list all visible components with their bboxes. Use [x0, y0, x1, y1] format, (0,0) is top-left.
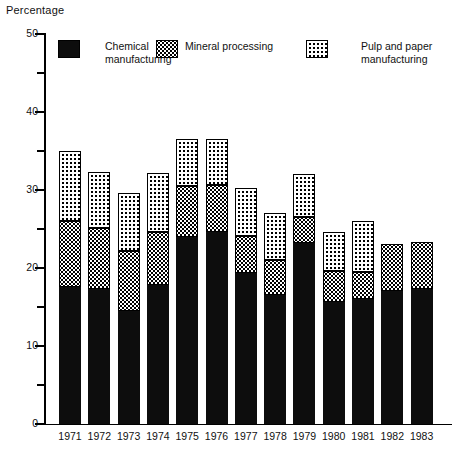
bar-segment-mineral-1977	[235, 236, 257, 273]
y-tick-label-20: 20	[4, 261, 38, 273]
y-tick-major-20	[35, 267, 44, 269]
bar-segment-pulp-1981	[352, 221, 374, 272]
bar-segment-chemical-1971	[59, 287, 81, 424]
bar-1978	[264, 213, 286, 424]
y-tick-major-50	[35, 33, 44, 35]
bar-segment-chemical-1976	[206, 232, 228, 424]
bar-segment-mineral-1975	[176, 186, 198, 237]
bar-segment-pulp-1976	[206, 139, 228, 185]
bar-segment-mineral-1973	[118, 251, 140, 311]
bar-segment-chemical-1973	[118, 311, 140, 423]
bar-segment-mineral-1971	[59, 221, 81, 287]
y-tick-major-0	[35, 423, 44, 425]
x-tick-label-1983: 1983	[402, 430, 442, 442]
bar-segment-chemical-1975	[176, 237, 198, 423]
bar-1982	[381, 244, 403, 423]
y-tick-label-50: 50	[4, 27, 38, 39]
bar-segment-mineral-1979	[293, 217, 315, 244]
bar-segment-chemical-1982	[381, 291, 403, 424]
bar-1977	[235, 188, 257, 424]
bar-1980	[323, 232, 345, 423]
bar-segment-chemical-1972	[88, 289, 110, 423]
bar-segment-mineral-1981	[352, 272, 374, 299]
bar-segment-pulp-1971	[59, 151, 81, 222]
bar-segment-pulp-1980	[323, 232, 345, 271]
y-tick-major-10	[35, 345, 44, 347]
bar-segment-pulp-1979	[293, 174, 315, 217]
bar-segment-pulp-1974	[147, 173, 169, 232]
y-tick-label-30: 30	[4, 183, 38, 195]
bar-1971	[59, 151, 81, 424]
plot-area	[44, 33, 452, 425]
bar-1975	[176, 139, 198, 424]
bar-segment-mineral-1972	[88, 228, 110, 290]
y-tick-label-40: 40	[4, 105, 38, 117]
bar-1973	[118, 193, 140, 424]
bar-segment-mineral-1982	[381, 244, 403, 291]
bar-segment-mineral-1974	[147, 232, 169, 286]
y-axis-tick-labels: 01020304050	[0, 33, 38, 425]
bar-segment-pulp-1973	[118, 193, 140, 252]
bar-segment-chemical-1980	[323, 302, 345, 424]
bar-segment-chemical-1979	[293, 243, 315, 423]
bar-segment-chemical-1981	[352, 299, 374, 423]
x-axis-tick-labels: 1971197219731974197519761977197819791980…	[44, 430, 452, 450]
y-tick-major-40	[35, 111, 44, 113]
bar-segment-pulp-1975	[176, 139, 198, 186]
y-tick-label-0: 0	[4, 417, 38, 429]
bar-1983	[411, 242, 433, 424]
bar-segment-pulp-1972	[88, 172, 110, 228]
bar-segment-chemical-1974	[147, 285, 169, 423]
y-tick-minor-25	[37, 228, 44, 230]
bar-segment-mineral-1983	[411, 242, 433, 290]
bar-segment-mineral-1976	[206, 185, 228, 232]
y-axis-title: Percentage	[6, 4, 64, 16]
bar-segment-mineral-1980	[323, 271, 345, 301]
bar-1979	[293, 174, 315, 424]
bar-1974	[147, 173, 169, 423]
bar-segment-mineral-1978	[264, 260, 286, 295]
y-tick-minor-5	[37, 384, 44, 386]
bar-1972	[88, 172, 110, 424]
bar-segment-pulp-1978	[264, 213, 286, 260]
bar-segment-chemical-1977	[235, 273, 257, 424]
stacked-bar-chart: Percentage Chemical manufacturing Minera…	[0, 0, 457, 462]
bar-segment-pulp-1977	[235, 188, 257, 236]
bar-series-group	[44, 33, 452, 425]
y-tick-major-30	[35, 189, 44, 191]
bar-1976	[206, 139, 228, 424]
bar-1981	[352, 221, 374, 424]
y-tick-label-10: 10	[4, 339, 38, 351]
bar-segment-chemical-1983	[411, 289, 433, 423]
y-tick-minor-15	[37, 306, 44, 308]
y-tick-minor-35	[37, 150, 44, 152]
y-tick-minor-45	[37, 72, 44, 74]
bar-segment-chemical-1978	[264, 295, 286, 424]
